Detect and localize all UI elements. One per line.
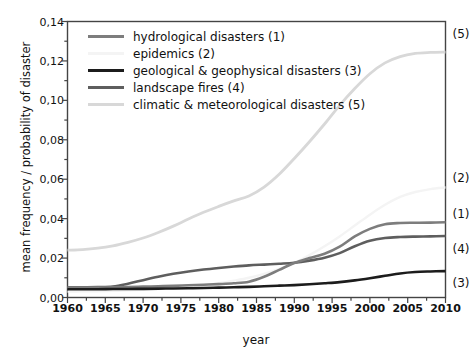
legend-item-5: climatic & meteorological disasters (5) <box>88 96 388 113</box>
series-callout-1: (1) <box>453 207 470 221</box>
chart-figure: mean frequency / probability of disaster… <box>0 0 471 357</box>
legend-label-1: hydrological disasters (1) <box>133 30 285 44</box>
series-callout-5: (5) <box>453 27 470 41</box>
series-line-1 <box>68 222 446 287</box>
legend-swatch-3 <box>88 69 124 72</box>
legend-swatch-2 <box>88 52 124 55</box>
legend-swatch-4 <box>88 86 124 89</box>
series-callout-2: (2) <box>453 171 470 185</box>
legend-item-4: landscape fires (4) <box>88 79 388 96</box>
series-callout-3: (3) <box>453 276 470 290</box>
legend-item-3: geological & geophysical disasters (3) <box>88 62 388 79</box>
legend-item-2: epidemics (2) <box>88 45 388 62</box>
series-callout-4: (4) <box>453 242 470 256</box>
legend-label-5: climatic & meteorological disasters (5) <box>133 98 365 112</box>
legend-label-2: epidemics (2) <box>133 47 215 61</box>
legend-swatch-1 <box>88 35 124 38</box>
legend-label-3: geological & geophysical disasters (3) <box>133 64 362 78</box>
chart-legend: hydrological disasters (1)epidemics (2)g… <box>88 28 388 113</box>
legend-swatch-5 <box>88 103 124 106</box>
legend-label-4: landscape fires (4) <box>133 81 245 95</box>
legend-item-1: hydrological disasters (1) <box>88 28 388 45</box>
